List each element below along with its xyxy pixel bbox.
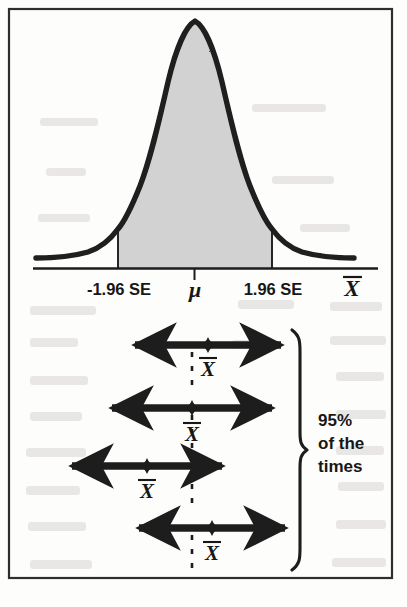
brace-label-line-1: 95% [318, 411, 352, 430]
interval-xbar-glyph-2: X [184, 422, 200, 446]
figure-root: -1.96 SE μ 1.96 SE X X [0, 0, 407, 607]
brace-label-line-3: times [318, 457, 362, 476]
axis-label-lower-bound: -1.96 SE [87, 280, 151, 298]
axis-label-upper-bound: 1.96 SE [244, 280, 303, 298]
axis-label-mu: μ [188, 277, 201, 302]
axis-variable-xbar-glyph: X [343, 276, 360, 301]
interval-xbar-label-3: X [138, 479, 156, 503]
interval-xbar-glyph-1: X [200, 357, 216, 381]
confidence-interval-diagram: -1.96 SE μ 1.96 SE X X [0, 0, 407, 607]
interval-xbar-glyph-3: X [139, 479, 155, 503]
interval-xbar-label-2: X [183, 422, 201, 446]
interval-xbar-label-4: X [203, 541, 221, 565]
interval-xbar-label-1: X [199, 357, 217, 381]
interval-xbar-glyph-4: X [204, 541, 220, 565]
axis-variable-xbar: X [343, 276, 362, 301]
brace-label-line-2: of the [318, 434, 364, 453]
